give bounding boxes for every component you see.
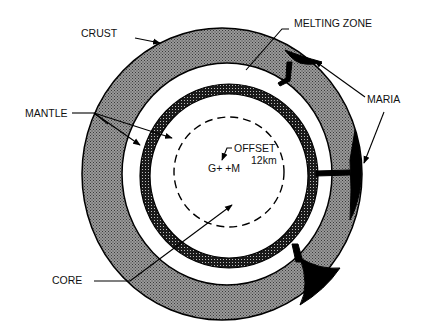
crust-label: CRUST: [81, 27, 118, 39]
offset-value-label: 12km: [251, 154, 277, 166]
melting-zone-label: MELTING ZONE: [294, 17, 372, 29]
melting-zone-layer: [140, 84, 318, 268]
mantle-label: MANTLE: [25, 107, 68, 119]
offset-label: OFFSET: [234, 142, 276, 154]
maria-label: MARIA: [367, 93, 400, 105]
core-label: CORE: [52, 274, 82, 286]
moon-cross-section-diagram: CRUST MELTING ZONE MARIA MANTLE OFFSET 1…: [0, 0, 421, 331]
centers-label: G+ +M: [208, 162, 240, 174]
